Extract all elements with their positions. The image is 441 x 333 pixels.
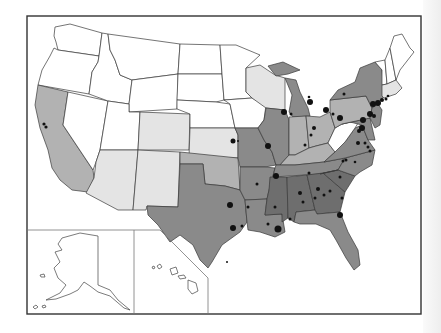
state-fl: [294, 210, 360, 270]
page-edge-shadow: [423, 0, 441, 333]
state-wy: [129, 74, 178, 112]
us-map-svg: [0, 0, 441, 333]
inset-hawaii: [152, 264, 198, 294]
state-co: [138, 112, 190, 150]
state-nm: [133, 150, 180, 210]
states-layer: [35, 24, 414, 270]
state-nd: [178, 44, 222, 74]
inset-alaska: [46, 233, 130, 310]
inset-alaska-islands: [33, 274, 46, 309]
us-map: [0, 0, 441, 333]
state-sd: [177, 74, 224, 102]
insets: [27, 230, 208, 314]
